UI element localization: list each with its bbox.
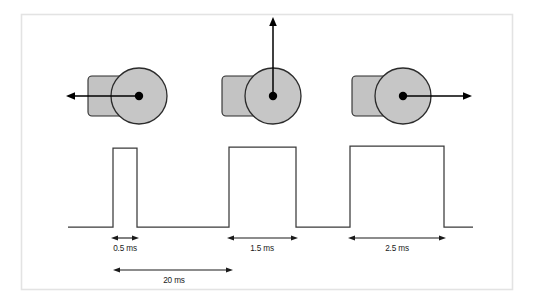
servo-pwm-figure: 0.5 ms 1.5 ms 2.5 ms 20 ms (0, 0, 535, 303)
figure-canvas: 0.5 ms 1.5 ms 2.5 ms 20 ms (0, 0, 535, 303)
dimension-label-pulse-3: 2.5 ms (385, 244, 409, 253)
dimension-pulse-1: 0.5 ms (111, 235, 139, 253)
servo-right-hub-dot (399, 92, 407, 100)
servo-left-hub-dot (135, 92, 143, 100)
servo-center-hub-dot (269, 92, 277, 100)
dimension-label-period: 20 ms (163, 276, 185, 285)
dimension-label-pulse-1: 0.5 ms (113, 244, 137, 253)
dimension-label-pulse-2: 1.5 ms (250, 244, 274, 253)
